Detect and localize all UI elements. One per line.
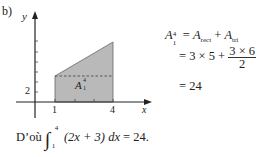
region-label: A41 bbox=[75, 79, 82, 91]
equation-line-1: A41 = Arect + Atri bbox=[165, 28, 238, 44]
x-tick-label-4: 4 bbox=[110, 104, 115, 115]
shaded-region bbox=[55, 42, 113, 102]
x-tick-label-1: 1 bbox=[52, 104, 57, 115]
equation-line-2: = 3 × 5 + 3 × 6 2 bbox=[179, 45, 256, 70]
equation-line-3: = 24 bbox=[179, 79, 202, 94]
y-tick-label-2: 2 bbox=[25, 85, 30, 96]
fraction: 3 × 6 2 bbox=[228, 45, 256, 70]
integral-sign-icon: ∫ bbox=[45, 128, 50, 150]
x-axis-label: x bbox=[142, 104, 146, 115]
conclusion-line: D’où ∫ 4 1 (2x + 3) dx = 24. bbox=[16, 128, 149, 151]
y-axis-arrow-icon bbox=[32, 11, 38, 19]
y-axis-label: y bbox=[22, 10, 27, 22]
